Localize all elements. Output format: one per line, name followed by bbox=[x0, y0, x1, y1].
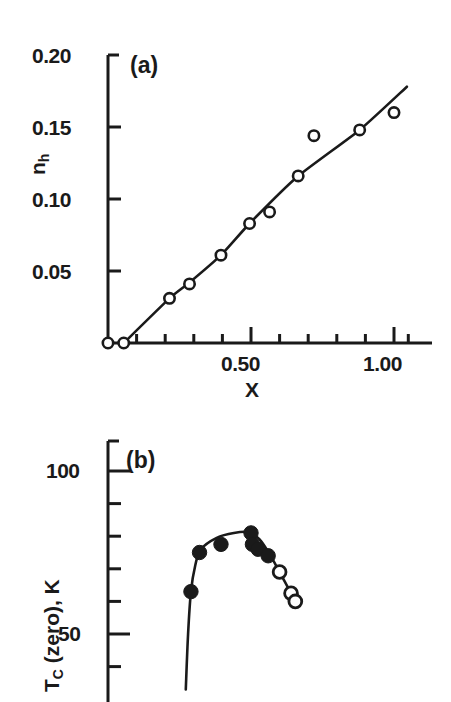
figure-container: 0.20 0.15 0.10 0.05 0.50 1.00 nh X (a) 1… bbox=[0, 0, 451, 702]
panel-a-label: (a) bbox=[130, 52, 158, 79]
panel-b-y-axis-title: TC (zero), K bbox=[40, 579, 64, 692]
panel-b-open-datapoint-2 bbox=[289, 595, 302, 608]
panel-b-plot bbox=[0, 390, 451, 702]
panel-a-xtick-1: 1.00 bbox=[363, 352, 402, 376]
panel-b-ytick-0: 100 bbox=[46, 459, 80, 483]
panel-b-filled-datapoint-2 bbox=[214, 537, 228, 551]
panel-a-datapoint-6 bbox=[264, 207, 274, 217]
panel-b-filled-datapoint-1 bbox=[192, 545, 206, 559]
panel-a: 0.20 0.15 0.10 0.05 0.50 1.00 nh X (a) bbox=[0, 0, 451, 400]
panel-a-y-axis-title: nh bbox=[26, 154, 50, 175]
panel-a-datapoint-3 bbox=[184, 279, 194, 289]
panel-a-datapoint-9 bbox=[354, 125, 364, 135]
panel-b-graphics bbox=[108, 441, 302, 702]
panel-b-filled-datapoint-0 bbox=[184, 584, 198, 598]
panel-a-datapoint-4 bbox=[216, 250, 226, 260]
panel-a-y-axis-title-main: n bbox=[26, 162, 49, 175]
panel-a-graphics bbox=[103, 55, 432, 348]
panel-b-y-axis-title-sub: C bbox=[50, 669, 66, 679]
panel-a-datapoint-1 bbox=[119, 338, 129, 348]
panel-a-datapoint-8 bbox=[309, 130, 319, 140]
panel-b-open-datapoint-0 bbox=[273, 566, 286, 579]
panel-a-ytick-1: 0.15 bbox=[32, 116, 71, 140]
panel-a-y-axis-title-sub: h bbox=[36, 154, 52, 163]
panel-a-datapoint-2 bbox=[164, 293, 174, 303]
panel-a-ytick-2: 0.10 bbox=[32, 188, 71, 212]
panel-a-datapoint-0 bbox=[103, 338, 113, 348]
panel-b-label: (b) bbox=[126, 447, 155, 474]
panel-b: 100 50 TC (zero), K (b) bbox=[0, 390, 451, 702]
panel-a-ytick-0: 0.20 bbox=[32, 44, 71, 68]
panel-b-filled-datapoint-6 bbox=[261, 549, 275, 563]
panel-a-datapoint-5 bbox=[244, 218, 254, 228]
panel-a-datapoint-7 bbox=[293, 171, 303, 181]
panel-a-datapoint-10 bbox=[389, 107, 399, 117]
panel-a-xtick-0: 0.50 bbox=[221, 352, 260, 376]
panel-a-ytick-3: 0.05 bbox=[32, 260, 71, 284]
panel-b-y-axis-title-rest: (zero), K bbox=[40, 579, 63, 669]
panel-b-y-axis-title-main: T bbox=[40, 679, 63, 692]
